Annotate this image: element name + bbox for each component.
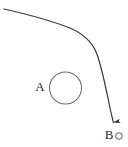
label-b: B	[105, 127, 114, 142]
figure-drawing: A B	[0, 0, 128, 147]
label-a: A	[35, 79, 45, 94]
figure-canvas: A B	[0, 0, 128, 147]
figure-background	[0, 0, 128, 147]
